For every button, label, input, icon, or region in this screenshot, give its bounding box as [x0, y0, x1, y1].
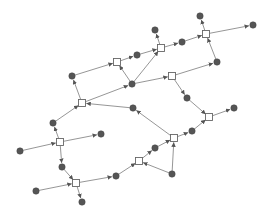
- arc-p4-t3: [185, 35, 202, 41]
- diagram-svg: [0, 0, 272, 220]
- arc-p7-t3: [208, 38, 216, 59]
- place-node-p3: [152, 27, 158, 33]
- arc-t10-p21: [213, 109, 230, 115]
- place-node-p16: [113, 173, 119, 179]
- place-node-p13: [98, 131, 104, 137]
- arc-p11-t5: [56, 105, 79, 121]
- arc-p8-t1: [119, 66, 130, 82]
- place-node-p12: [17, 148, 23, 154]
- place-node-p11: [50, 120, 56, 126]
- place-node-p19: [169, 171, 175, 177]
- arc-t3-p6: [210, 26, 249, 33]
- transition-node-t5: [79, 100, 86, 107]
- transition-node-t6: [57, 139, 64, 146]
- arc-p2-t2: [140, 49, 157, 54]
- arc-t1-p2: [121, 56, 133, 60]
- arc-p9-t5: [86, 103, 130, 107]
- place-node-p2: [134, 52, 140, 58]
- arc-t7-p16: [80, 177, 112, 183]
- arc-t8-p9: [136, 110, 171, 135]
- place-node-p6: [250, 22, 256, 28]
- transition-node-t9: [136, 158, 143, 165]
- arc-t5-p1: [73, 80, 80, 99]
- arc-t3-p5: [201, 20, 204, 30]
- transition-node-t1: [114, 59, 121, 66]
- arc-p19-t8: [172, 142, 174, 171]
- arc-p15-t7: [39, 184, 72, 191]
- transition-node-t4: [169, 73, 176, 80]
- arc-t4-p10: [174, 79, 184, 94]
- arc-t2-p3: [156, 34, 159, 44]
- petri-net-diagram: [0, 0, 272, 220]
- arc-t6-p14: [60, 146, 61, 163]
- arc-t6-p13: [64, 135, 97, 141]
- place-node-p17: [79, 199, 85, 205]
- arc-t9-p18: [142, 151, 152, 159]
- arc-p10-t10: [189, 100, 205, 114]
- place-node-p5: [197, 13, 203, 19]
- transition-node-t3: [203, 31, 210, 38]
- place-node-p4: [179, 39, 185, 45]
- place-node-p18: [152, 145, 158, 151]
- place-node-p20: [189, 128, 195, 134]
- transition-node-t8: [171, 135, 178, 142]
- arc-t8-p20: [178, 132, 189, 136]
- transition-node-t10: [206, 114, 213, 121]
- transition-node-t2: [158, 45, 165, 52]
- place-node-p15: [33, 188, 39, 194]
- arc-t4-p7: [176, 63, 213, 75]
- place-node-p21: [231, 105, 237, 111]
- arc-p12-t6: [23, 143, 56, 150]
- place-node-p1: [69, 73, 75, 79]
- arc-t6-p11: [54, 127, 58, 138]
- place-node-p14: [59, 164, 65, 170]
- arc-p19-t9: [143, 163, 169, 173]
- arc-t5-p8: [86, 85, 129, 101]
- transition-node-t7: [73, 180, 80, 187]
- place-node-p10: [184, 95, 190, 101]
- arc-t7-p17: [77, 187, 81, 198]
- arc-p1-t1: [75, 63, 113, 75]
- arc-t2-p4: [165, 43, 178, 47]
- place-node-p7: [214, 59, 220, 65]
- arc-p14-t7: [64, 169, 73, 179]
- arc-p8-t4: [135, 77, 168, 84]
- place-node-p8: [129, 81, 135, 87]
- place-node-p9: [130, 105, 136, 111]
- arc-p20-t10: [194, 120, 205, 129]
- node-layer: [17, 13, 256, 205]
- arc-p16-t9: [119, 163, 136, 174]
- arc-p18-t8: [158, 140, 170, 147]
